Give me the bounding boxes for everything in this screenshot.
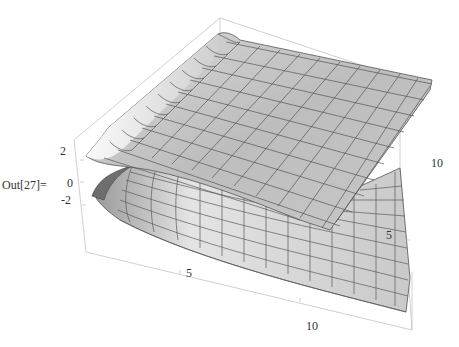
y-tick-10: 10: [431, 156, 443, 171]
plot3d-graphic[interactable]: [0, 0, 459, 347]
y-tick-5: 5: [386, 228, 392, 243]
z-tick-0: 0: [67, 176, 73, 191]
z-tick-neg2: -2: [61, 193, 71, 208]
x-tick-10: 10: [306, 319, 318, 334]
x-tick-5: 5: [186, 266, 192, 281]
z-tick-2: 2: [60, 144, 66, 159]
